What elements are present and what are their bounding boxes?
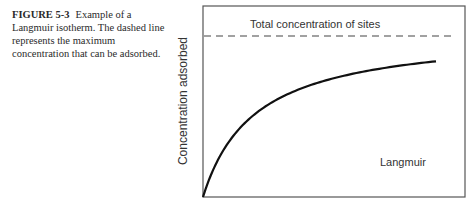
y-axis-label: Concentration adsorbed — [176, 37, 190, 165]
plot-frame — [203, 6, 465, 197]
total-sites-label: Total concentration of sites — [250, 18, 381, 30]
langmuir-chart: Concentration adsorbed Total concentrati… — [0, 0, 474, 210]
langmuir-label: Langmuir — [380, 156, 426, 168]
langmuir-curve — [203, 61, 436, 197]
